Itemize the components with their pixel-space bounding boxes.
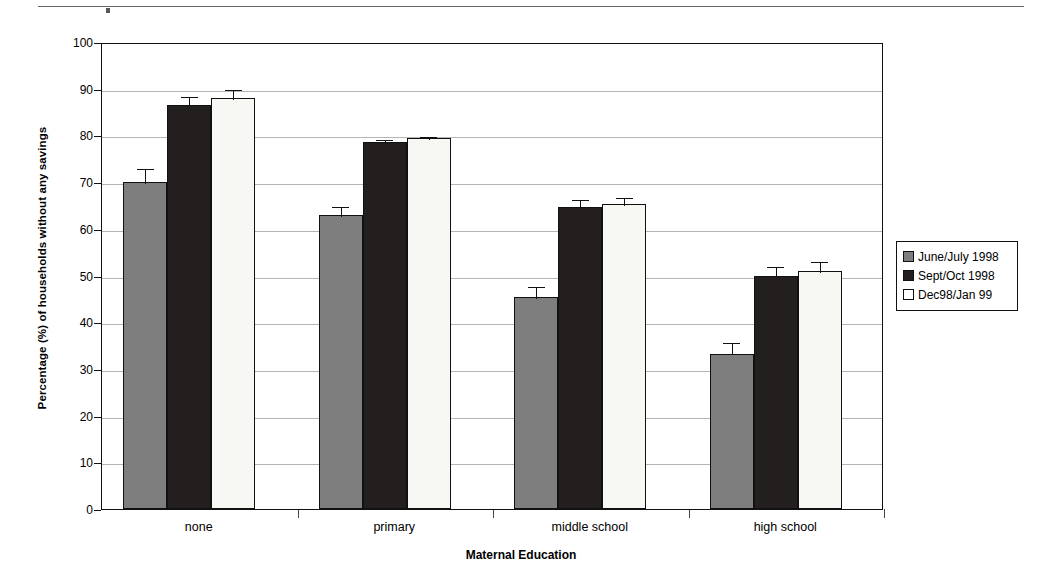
y-tick-label: 90 (53, 84, 93, 96)
legend-swatch-sept-oct-1998 (903, 270, 914, 281)
y-tick-label: 10 (53, 457, 93, 469)
error-bar-cap (332, 207, 349, 208)
plot-area (101, 43, 883, 510)
error-bar-cap (376, 140, 393, 141)
legend-label: June/July 1998 (918, 250, 999, 264)
y-tick-label: 30 (53, 364, 93, 376)
error-bar (580, 200, 581, 208)
error-bar (820, 262, 821, 273)
legend-item: Sept/Oct 1998 (903, 266, 1012, 285)
chart-legend: June/July 1998 Sept/Oct 1998 Dec98/Jan 9… (896, 241, 1018, 311)
error-bar (145, 169, 146, 184)
x-category-label: primary (297, 520, 493, 534)
y-tick-mark (94, 323, 101, 324)
y-tick-label: 100 (53, 37, 93, 49)
y-tick-label: 80 (53, 130, 93, 142)
error-bar-cap (616, 198, 633, 199)
bar (514, 297, 558, 509)
figure-page: Percentage (%) of households without any… (0, 0, 1042, 587)
x-tick-mark (493, 509, 494, 518)
x-category-label: high school (688, 520, 884, 534)
x-category-label: middle school (492, 520, 688, 534)
legend-swatch-june-july-1998 (903, 251, 914, 262)
x-axis-title: Maternal Education (0, 548, 1042, 562)
y-tick-mark (94, 183, 101, 184)
legend-item: Dec98/Jan 99 (903, 285, 1012, 304)
y-tick-label: 40 (53, 317, 93, 329)
error-bar-cap (181, 97, 198, 98)
error-bar (536, 287, 537, 300)
y-tick-label: 70 (53, 177, 93, 189)
error-bar-cap (723, 343, 740, 344)
error-bar-cap (420, 137, 437, 138)
bar (123, 182, 167, 509)
error-bar (233, 90, 234, 100)
y-tick-mark (94, 277, 101, 278)
x-axis-line (102, 509, 882, 510)
bar (602, 204, 646, 509)
bar-series-container (102, 44, 882, 509)
y-tick-mark (94, 136, 101, 137)
error-bar-cap (811, 262, 828, 263)
y-tick-label: 20 (53, 411, 93, 423)
error-bar (189, 97, 190, 107)
error-bar (776, 267, 777, 278)
bar (319, 215, 363, 509)
error-bar (341, 207, 342, 216)
bar (754, 276, 798, 510)
y-tick-label: 50 (53, 271, 93, 283)
error-bar-cap (572, 200, 589, 201)
x-category-label: none (101, 520, 297, 534)
y-tick-mark (94, 230, 101, 231)
bar (167, 105, 211, 509)
y-tick-mark (94, 90, 101, 91)
y-tick-mark (94, 370, 101, 371)
bar (211, 98, 255, 509)
y-tick-mark (94, 510, 101, 511)
error-bar-cap (767, 267, 784, 268)
bar (558, 207, 602, 509)
error-bar-cap (137, 169, 154, 170)
y-axis-title: Percentage (%) of households without any… (36, 78, 48, 458)
bar (363, 142, 407, 509)
x-tick-mark (689, 509, 690, 518)
error-bar (732, 343, 733, 355)
error-bar-cap (528, 287, 545, 288)
bar-chart-figure: Percentage (%) of households without any… (0, 0, 1042, 587)
legend-swatch-dec98-jan-99 (903, 289, 914, 300)
x-tick-mark (884, 509, 885, 518)
error-bar-cap (225, 90, 242, 91)
bar (798, 271, 842, 509)
y-tick-mark (94, 463, 101, 464)
y-tick-label: 0 (53, 504, 93, 516)
legend-label: Sept/Oct 1998 (918, 269, 995, 283)
legend-item: June/July 1998 (903, 247, 1012, 266)
y-tick-label: 60 (53, 224, 93, 236)
bar (710, 354, 754, 510)
y-tick-mark (94, 417, 101, 418)
x-tick-mark (298, 509, 299, 518)
legend-label: Dec98/Jan 99 (918, 288, 992, 302)
bar (407, 138, 451, 509)
y-tick-mark (94, 43, 101, 44)
error-bar (624, 198, 625, 206)
